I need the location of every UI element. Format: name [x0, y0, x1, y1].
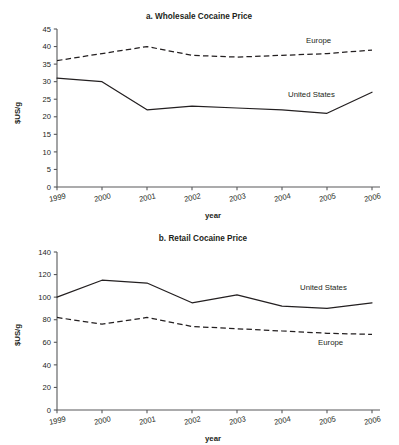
chart-a-y-axis-label: $US/g [13, 102, 22, 124]
x-tick-label: 2003 [228, 191, 246, 203]
y-tick-label: 0 [47, 406, 51, 415]
x-tick-label: 2000 [93, 191, 111, 203]
y-tick-label: 45 [43, 25, 51, 34]
y-tick-label: 120 [38, 270, 51, 279]
x-tick-label: 2004 [273, 191, 291, 203]
x-tick-label: 2000 [93, 414, 111, 426]
y-tick-label: 20 [43, 383, 51, 392]
chart-a-label-united-states: United States [288, 90, 335, 99]
chart-retail-cocaine-price: b. Retail Cocaine Price $US/g year 02040… [0, 222, 399, 445]
chart-b-label-europe: Europe [318, 338, 343, 347]
chart-b-axis-lines [57, 252, 380, 410]
y-tick-label: 80 [43, 315, 51, 324]
chart-a-title: a. Wholesale Cocaine Price [146, 12, 252, 21]
x-tick-label: 2005 [318, 191, 336, 203]
x-tick-label: 2001 [138, 414, 156, 426]
chart-b-x-tick-group: 19992000200120022003200420052006 [48, 410, 381, 427]
chart-wholesale-cocaine-price: a. Wholesale Cocaine Price $US/g year 05… [0, 0, 399, 222]
y-tick-label: 140 [38, 248, 51, 257]
y-tick-label: 100 [38, 293, 51, 302]
y-tick-label: 25 [43, 95, 51, 104]
x-tick-label: 2006 [363, 191, 381, 203]
y-tick-label: 15 [43, 130, 51, 139]
y-tick-label: 60 [43, 338, 51, 347]
chart-a-label-europe: Europe [306, 36, 331, 45]
y-tick-label: 5 [47, 165, 51, 174]
y-tick-label: 40 [43, 361, 51, 370]
y-tick-label: 30 [43, 77, 51, 86]
chart-b-x-axis-label: year [205, 434, 221, 443]
y-tick-label: 40 [43, 42, 51, 51]
x-tick-label: 1999 [48, 414, 66, 426]
x-tick-label: 1999 [48, 191, 66, 203]
chart-b-series-europe [57, 317, 372, 334]
x-tick-label: 2004 [273, 414, 291, 426]
chart-b-y-tick-group: 020406080100120140 [38, 248, 57, 415]
x-tick-label: 2001 [138, 191, 156, 203]
chart-b-y-axis-label: $US/g [13, 324, 22, 346]
chart-a-x-tick-group: 19992000200120022003200420052006 [48, 187, 381, 204]
chart-a-series-europe [57, 47, 372, 61]
y-tick-label: 10 [43, 148, 51, 157]
chart-b-label-united-states: United States [300, 283, 347, 292]
y-tick-label: 0 [47, 183, 51, 192]
x-tick-label: 2003 [228, 414, 246, 426]
x-tick-label: 2006 [363, 414, 381, 426]
chart-a-x-axis-label: year [205, 211, 221, 220]
chart-a-axis-lines [57, 29, 380, 187]
chart-b-svg: b. Retail Cocaine Price $US/g year 02040… [0, 222, 399, 445]
chart-b-title: b. Retail Cocaine Price [159, 234, 248, 243]
y-tick-label: 35 [43, 60, 51, 69]
x-tick-label: 2005 [318, 414, 336, 426]
x-tick-label: 2002 [183, 414, 201, 426]
chart-a-y-tick-group: 051015202530354045 [43, 25, 57, 192]
chart-a-svg: a. Wholesale Cocaine Price $US/g year 05… [0, 0, 399, 222]
y-tick-label: 20 [43, 112, 51, 121]
x-tick-label: 2002 [183, 191, 201, 203]
